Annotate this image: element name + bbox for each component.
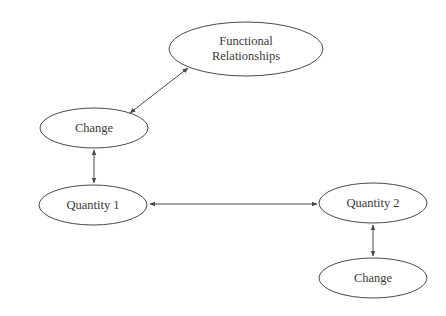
node-functional-label-line2: Relationships [212,49,280,63]
node-quantity-2: Quantity 2 [319,183,427,223]
node-change-1-label: Change [75,121,114,135]
concept-diagram: Functional Relationships Change Quantity… [0,0,446,316]
node-quantity-1-label: Quantity 1 [66,198,119,212]
node-quantity-2-label: Quantity 2 [346,196,399,210]
node-functional-label-line1: Functional [219,34,273,48]
node-change-2-label: Change [354,271,393,285]
node-functional-relationships: Functional Relationships [169,22,323,76]
node-change-1: Change [40,108,148,148]
node-quantity-1: Quantity 1 [39,185,147,225]
node-change-2: Change [319,258,427,298]
edge-change-functional [130,68,188,113]
